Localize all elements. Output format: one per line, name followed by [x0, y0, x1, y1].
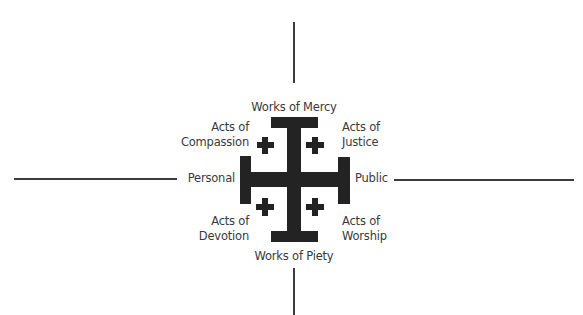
label-personal: Personal — [176, 171, 235, 186]
axis-line-bottom — [293, 268, 295, 315]
axis-line-right — [394, 179, 574, 181]
label-acts-of-worship-line2: Worship — [342, 229, 387, 244]
cross-left-bar — [240, 156, 251, 204]
label-acts-of-worship: Acts of Worship — [342, 214, 387, 244]
label-acts-of-compassion-line1: Acts of — [170, 120, 249, 135]
label-acts-of-devotion: Acts of Devotion — [170, 214, 249, 244]
label-public: Public — [355, 171, 388, 186]
label-acts-of-justice-line1: Acts of — [342, 120, 380, 135]
label-works-of-piety: Works of Piety — [245, 249, 343, 264]
cross-horizontal-arm — [240, 172, 350, 187]
label-acts-of-devotion-line1: Acts of — [170, 214, 249, 229]
label-acts-of-compassion: Acts of Compassion — [170, 120, 249, 150]
cross-bottom-bar — [271, 231, 318, 242]
axis-line-top — [293, 22, 295, 83]
label-acts-of-justice: Acts of Justice — [342, 120, 380, 150]
label-acts-of-devotion-line2: Devotion — [170, 229, 249, 244]
cross-top-bar — [271, 117, 318, 128]
label-works-of-mercy: Works of Mercy — [245, 100, 343, 115]
label-acts-of-worship-line1: Acts of — [342, 214, 387, 229]
label-acts-of-compassion-line2: Compassion — [170, 135, 249, 150]
label-acts-of-justice-line2: Justice — [342, 135, 380, 150]
cross-right-bar — [338, 157, 350, 204]
axis-line-left — [14, 178, 177, 180]
